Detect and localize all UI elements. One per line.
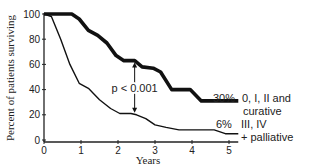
legend-late-line1: III, IV (241, 118, 267, 130)
arrow-down-icon (132, 108, 137, 113)
y-axis-title: Percent of patients surviving (4, 14, 16, 141)
y-tick-label: 20 (29, 109, 41, 120)
y-tick-label: 40 (29, 84, 41, 95)
survival-chart: 020406080100012345 30%0, I, II andcurati… (0, 0, 314, 167)
x-tick-label: 5 (226, 145, 232, 156)
legend-early-line1: 0, I, II and (242, 92, 291, 104)
curve-late-stage (44, 14, 238, 134)
x-tick-label: 0 (41, 145, 47, 156)
y-tick-label: 80 (29, 34, 41, 45)
y-tick-label: 0 (34, 135, 40, 146)
x-tick-label: 1 (78, 145, 84, 156)
x-tick-label: 2 (115, 145, 121, 156)
end-label-early: 30% (213, 92, 235, 104)
legend-late-line2: + palliative (241, 131, 293, 143)
p-value-label: p < 0.001 (112, 82, 158, 94)
x-axis-title: Years (136, 154, 161, 166)
x-tick-label: 4 (189, 145, 195, 156)
y-tick-label: 60 (29, 59, 41, 70)
legend-early-line2: curative (243, 105, 282, 117)
series-lines (44, 14, 238, 134)
end-label-late: 6% (216, 118, 232, 130)
annotations: 30%0, I, II andcurative6%III, IV+ pallia… (112, 63, 294, 143)
y-tick-label: 100 (23, 9, 40, 20)
